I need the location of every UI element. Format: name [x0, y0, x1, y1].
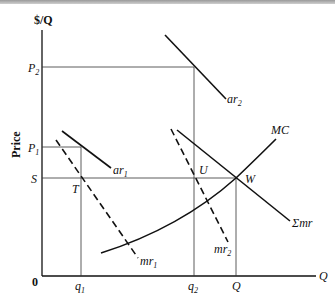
sum-mr-label: Σmr [291, 216, 313, 230]
ar2-label: ar2 [227, 92, 242, 108]
p1-label: P1 [27, 141, 39, 157]
ar1-label: ar1 [113, 163, 128, 179]
q2-label: q2 [188, 279, 198, 295]
q1-label: q1 [75, 279, 85, 295]
ar1-curve [62, 131, 111, 168]
point-u-label: U [199, 163, 209, 177]
mr1-label: mr1 [140, 254, 157, 270]
mr2-curve [171, 129, 228, 242]
q-label: Q [232, 279, 241, 293]
mc-curve [101, 139, 276, 253]
mc-label: MC [270, 123, 290, 137]
x-axis-label: Q [319, 269, 328, 283]
mr2-label: mr2 [214, 242, 231, 258]
y-axis-side-label: Price [9, 131, 23, 158]
price-discrimination-diagram: $/Q Price Q 0 P2 P1 S q1 q2 Q ar2 ar1 mr… [0, 0, 335, 301]
point-w-label: W [245, 172, 256, 186]
p2-label: P2 [27, 61, 39, 77]
point-t-label: T [72, 182, 80, 196]
s-label: S [31, 172, 37, 186]
y-axis-top-label: $/Q [34, 13, 53, 27]
origin-label: 0 [32, 275, 38, 289]
